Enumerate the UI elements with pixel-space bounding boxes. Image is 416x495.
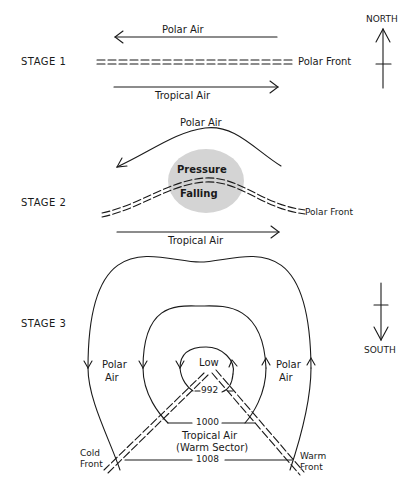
stage1-polar-front-label: Polar Front — [298, 57, 351, 67]
north-label: NORTH — [366, 15, 398, 24]
stage3-label: STAGE 3 — [21, 319, 66, 329]
warm-front-label-2: Front — [300, 463, 323, 472]
stage2-label: STAGE 2 — [21, 198, 66, 208]
polar-air-right-2: Air — [279, 373, 293, 383]
isobar-1008-label: 1008 — [196, 455, 219, 464]
low-label: Low — [199, 358, 219, 368]
falling-label: Falling — [180, 189, 218, 199]
stage1-label: STAGE 1 — [21, 57, 66, 67]
south-arrow-icon — [374, 283, 388, 340]
polar-air-left-1: Polar — [102, 360, 127, 370]
stage2-polar-air-label: Polar Air — [180, 118, 222, 128]
warm-sector-line2: (Warm Sector) — [176, 443, 248, 453]
cold-front-label-1: Cold — [80, 449, 100, 458]
stage1-polar-front — [97, 60, 292, 64]
isobar-1000-label: 1000 — [196, 418, 219, 427]
stage2-tropical-air-label: Tropical Air — [168, 236, 223, 246]
warm-front-label-1: Warm — [300, 452, 326, 461]
pressure-falling-area — [168, 149, 244, 213]
stage2-polar-front-label: Polar Front — [305, 208, 353, 217]
pressure-label: Pressure — [177, 165, 227, 175]
south-label: SOUTH — [364, 346, 396, 355]
polar-air-right-1: Polar — [276, 360, 301, 370]
stage1-tropical-air-label: Tropical Air — [155, 91, 210, 101]
isobar-992-label: 992 — [201, 386, 218, 395]
stage1-polar-air-label: Polar Air — [162, 25, 204, 35]
north-arrow-icon — [376, 29, 391, 88]
warm-sector-line1: Tropical Air — [182, 431, 237, 441]
polar-air-left-2: Air — [105, 373, 119, 383]
cold-front-label-2: Front — [80, 460, 103, 469]
